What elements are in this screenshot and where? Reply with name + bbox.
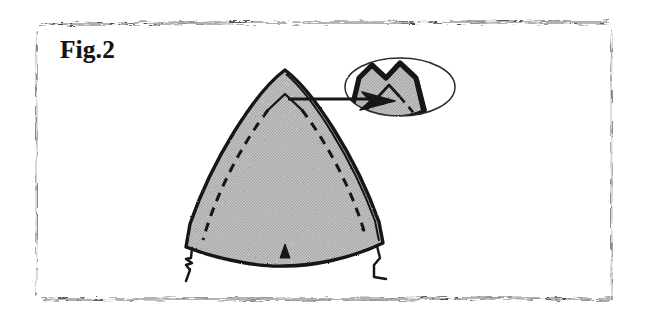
border-top (40, 22, 609, 25)
border-left (36, 30, 37, 296)
corner-tab-right (374, 246, 386, 279)
figure-label: Fig.2 (60, 36, 115, 64)
figure-page: Fig.2 (0, 0, 647, 332)
border-bottom (42, 298, 610, 300)
callout-content (352, 63, 426, 118)
border-right (611, 28, 612, 300)
corner-tab-left (186, 248, 192, 281)
